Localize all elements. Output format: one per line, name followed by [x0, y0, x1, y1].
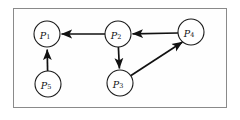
directed-graph-canvas: P1 P2 P3 P4 [0, 0, 240, 120]
node-p4-subscript: 4 [190, 31, 194, 39]
node-p5-subscript: 5 [47, 83, 51, 91]
node-p5[interactable]: P5 [35, 71, 61, 97]
node-p3[interactable]: P3 [107, 70, 133, 96]
node-p2[interactable]: P2 [105, 21, 131, 47]
node-p1[interactable]: P1 [34, 21, 60, 47]
diagram-screenshot: P1 P2 P3 P4 [0, 0, 240, 120]
edge-p2-to-p3 [118, 47, 119, 69]
edge-p3-to-p4 [131, 42, 183, 76]
edge-p4-to-p2 [133, 33, 179, 34]
node-p3-subscript: 3 [119, 82, 123, 90]
node-p1-subscript: 1 [46, 33, 50, 41]
node-p2-subscript: 2 [117, 33, 121, 41]
node-p4[interactable]: P4 [178, 19, 204, 45]
